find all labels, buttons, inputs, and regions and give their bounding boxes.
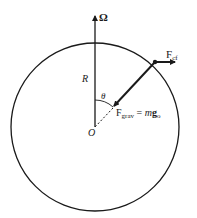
omega-label: Ω — [99, 11, 108, 23]
gravity-extension-dashed — [95, 108, 113, 127]
f-cf-sub: cf — [172, 54, 178, 62]
angle-label: θ — [101, 91, 106, 101]
origin-label: O — [88, 127, 95, 138]
f-grav-sub: grav — [122, 112, 135, 120]
f-grav-gsub: o — [157, 112, 161, 120]
centrifugal-force-label: Fcf — [166, 48, 178, 62]
f-grav-eq: = — [134, 107, 145, 118]
mass-point — [153, 60, 157, 64]
angle-arc — [95, 100, 113, 107]
radius-label: R — [81, 73, 88, 84]
gravity-force-label: Fgrav = mgo — [116, 107, 161, 120]
force-diagram: Ω R θ O Fcf Fgrav = mgo — [0, 0, 197, 218]
gravity-force-arrow — [114, 62, 155, 106]
f-grav-m: m — [145, 107, 152, 118]
